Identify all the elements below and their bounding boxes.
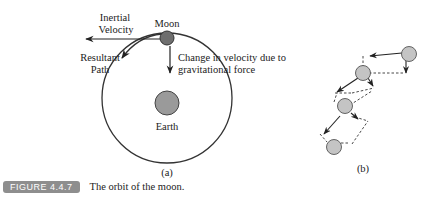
- moon-position-1: [402, 47, 417, 62]
- resultant-path-label-2: Path: [91, 64, 110, 75]
- change-velocity-label-1: Change in velocity due to: [178, 52, 286, 63]
- panel-a: Moon Earth Inertial Velocity Resultant P…: [80, 12, 286, 179]
- earth-icon: [155, 91, 179, 115]
- moon-position-4: [327, 140, 342, 155]
- b-arrow-2-inertial: [337, 78, 358, 92]
- b-arrow-3-gravity: [351, 113, 358, 119]
- moon-orbit-figure: Moon Earth Inertial Velocity Resultant P…: [0, 0, 429, 198]
- figure-number-badge: FIGURE 4.4.7: [3, 181, 80, 193]
- figure-caption-text: The orbit of the moon.: [90, 181, 185, 192]
- resultant-path-label-1: Resultant: [80, 52, 120, 63]
- panel-b-label: (b): [357, 163, 370, 175]
- b-arrow-2-gravity: [368, 78, 373, 86]
- b-arrow-1-inertial: [370, 53, 402, 56]
- inertial-velocity-label-2: Velocity: [99, 24, 135, 35]
- inertial-velocity-label-1: Inertial: [100, 12, 130, 23]
- change-velocity-label-2: gravitational force: [178, 64, 256, 75]
- moon-label: Moon: [154, 18, 180, 29]
- panel-a-label: (a): [161, 167, 173, 179]
- panel-b: (b): [320, 47, 417, 176]
- b-arrow-3-inertial: [324, 116, 340, 134]
- moon-position-2: [356, 66, 371, 81]
- moon-position-3: [338, 99, 353, 114]
- figure-caption: FIGURE 4.4.7 The orbit of the moon.: [3, 180, 184, 193]
- moon-icon: [160, 31, 174, 45]
- earth-label: Earth: [156, 121, 179, 132]
